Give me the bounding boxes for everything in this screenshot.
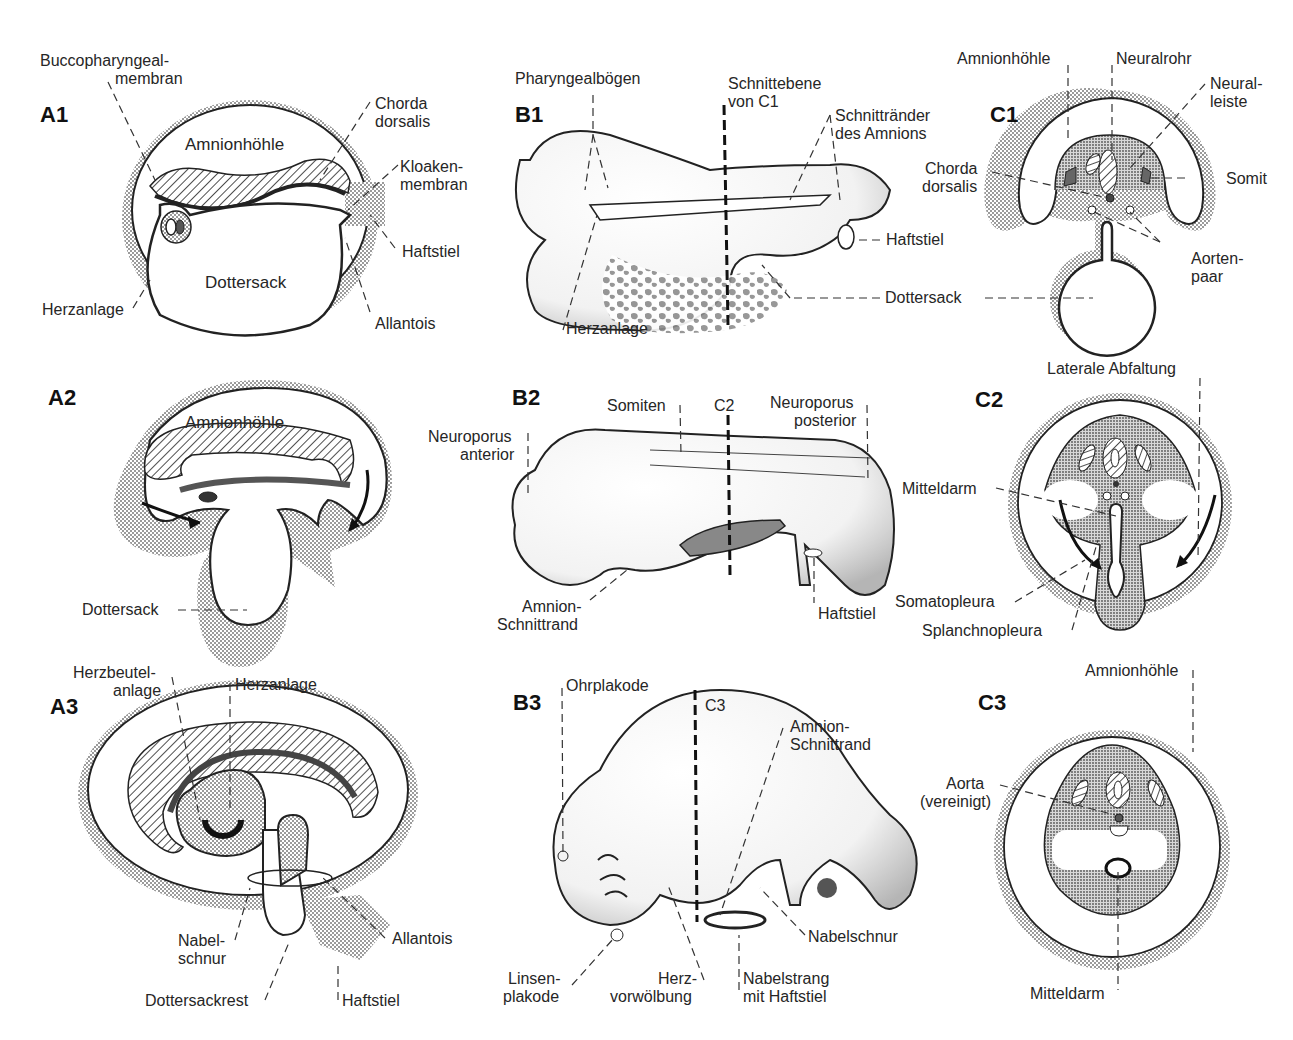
label-b2-haftstiel: Haftstiel xyxy=(818,605,876,622)
label-herzvorwoelbung-2: vorwölbung xyxy=(610,988,692,1005)
label-b3-nabelschnur: Nabelschnur xyxy=(808,928,898,945)
panel-label-a2: A2 xyxy=(48,385,76,411)
panel-a1-drawing xyxy=(108,82,398,336)
panel-label-c2: C2 xyxy=(975,387,1003,413)
label-kloakenmembran-1: Kloaken- xyxy=(400,158,463,175)
label-schnittraender-1: Schnittränder xyxy=(835,107,930,124)
label-schnittebene-1: Schnittebene xyxy=(728,75,821,92)
label-a1-chorda-2: dorsalis xyxy=(375,113,430,130)
panel-c3-drawing xyxy=(994,670,1230,990)
label-linsenplakode-1: Linsen- xyxy=(508,970,560,987)
label-c1-chorda-1: Chorda xyxy=(925,160,977,177)
label-aortenpaar-2: paar xyxy=(1191,268,1223,285)
panel-c1-drawing xyxy=(984,65,1215,356)
panel-label-a3: A3 xyxy=(50,694,78,720)
panel-label-c1: C1 xyxy=(990,102,1018,128)
label-c3-mitteldarm: Mitteldarm xyxy=(1030,985,1105,1002)
label-a2-dottersack: Dottersack xyxy=(82,601,158,618)
label-c2-mitteldarm: Mitteldarm xyxy=(902,480,977,497)
label-schnittebene-2: von C1 xyxy=(728,93,779,110)
label-buccopharyngeal-1: Buccopharyngeal- xyxy=(40,52,169,69)
label-a1-allantois: Allantois xyxy=(375,315,435,332)
label-a1-haftstiel: Haftstiel xyxy=(402,243,460,260)
label-b1-dottersack: Dottersack xyxy=(885,289,961,306)
panel-label-c3: C3 xyxy=(978,690,1006,716)
label-c3-plane: C3 xyxy=(705,697,725,714)
label-nabelschnur-2: schnur xyxy=(178,950,226,967)
label-nabelstrang-1: Nabelstrang xyxy=(743,970,829,987)
label-c1-amnionhoehle: Amnionhöhle xyxy=(957,50,1050,67)
label-a1-amnionhoehle: Amnionhöhle xyxy=(185,135,284,155)
label-dottersackrest: Dottersackrest xyxy=(145,992,248,1009)
label-schnittraender-2: des Amnions xyxy=(835,125,927,142)
embryo-folding-figure xyxy=(0,0,1293,1040)
panel-label-a1: A1 xyxy=(40,102,68,128)
panel-a3-drawing xyxy=(78,677,418,1000)
label-buccopharyngeal-2: membran xyxy=(115,70,183,87)
label-somatopleura: Somatopleura xyxy=(895,593,995,610)
label-a3-allantois: Allantois xyxy=(392,930,452,947)
label-b3-amnion-2: Schnittrand xyxy=(790,736,871,753)
label-np-posterior-1: Neuroporus xyxy=(770,394,854,411)
label-neuralleiste-2: leiste xyxy=(1210,93,1247,110)
label-aorta-1: Aorta xyxy=(946,775,984,792)
label-nabelschnur-1: Nabel- xyxy=(178,932,225,949)
panel-b1-drawing xyxy=(516,95,890,333)
label-c2-plane: C2 xyxy=(714,397,734,414)
label-linsenplakode-2: plakode xyxy=(503,988,559,1005)
label-herzvorwoelbung-1: Herz- xyxy=(658,970,697,987)
label-pharyngealboegen: Pharyngealbögen xyxy=(515,70,640,87)
label-ohrplakode: Ohrplakode xyxy=(566,677,649,694)
label-somiten: Somiten xyxy=(607,397,666,414)
label-a1-herzanlage: Herzanlage xyxy=(42,301,124,318)
label-somit: Somit xyxy=(1226,170,1267,187)
panel-c2-drawing xyxy=(996,378,1232,630)
label-herzbeutelanlage-2: anlage xyxy=(113,682,161,699)
label-c1-chorda-2: dorsalis xyxy=(922,178,977,195)
label-a3-haftstiel: Haftstiel xyxy=(342,992,400,1009)
label-a2-amnionhoehle: Amnionhöhle xyxy=(185,413,284,433)
label-herzbeutelanlage-1: Herzbeutel- xyxy=(73,664,156,681)
label-b2-amnion-2: Schnittrand xyxy=(497,616,578,633)
panel-label-b2: B2 xyxy=(512,385,540,411)
label-splanchnopleura: Splanchnopleura xyxy=(922,622,1042,639)
label-aortenpaar-1: Aorten- xyxy=(1191,250,1243,267)
label-neuralleiste-1: Neural- xyxy=(1210,75,1262,92)
label-b3-amnion-1: Amnion- xyxy=(790,718,850,735)
label-a3-herzanlage: Herzanlage xyxy=(235,676,317,693)
panel-label-b3: B3 xyxy=(513,690,541,716)
label-c3-amnionhoehle: Amnionhöhle xyxy=(1085,662,1178,679)
label-kloakenmembran-2: membran xyxy=(400,176,468,193)
label-neuralrohr: Neuralrohr xyxy=(1116,50,1192,67)
label-nabelstrang-2: mit Haftstiel xyxy=(743,988,827,1005)
label-a1-chorda-1: Chorda xyxy=(375,95,427,112)
label-aorta-2: (vereinigt) xyxy=(920,793,991,810)
label-np-anterior-1: Neuroporus xyxy=(428,428,512,445)
label-b2-amnion-1: Amnion- xyxy=(522,598,582,615)
label-np-anterior-2: anterior xyxy=(460,446,514,463)
label-a1-dottersack: Dottersack xyxy=(205,273,286,293)
label-np-posterior-2: posterior xyxy=(794,412,856,429)
panel-b2-drawing xyxy=(513,405,895,603)
panel-label-b1: B1 xyxy=(515,102,543,128)
label-b1-herzanlage: Herzanlage xyxy=(566,320,648,337)
label-laterale-abfaltung: Laterale Abfaltung xyxy=(1047,360,1176,377)
label-b1-haftstiel: Haftstiel xyxy=(886,231,944,248)
